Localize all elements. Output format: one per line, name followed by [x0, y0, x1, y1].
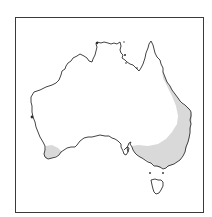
king-island-mark	[149, 172, 151, 174]
distribution-map: Outline map of Australia with shaded dis…	[0, 0, 212, 217]
wellesley-islands-mark	[125, 62, 127, 64]
map-frame	[16, 18, 204, 213]
spencer-gulf-detail	[124, 147, 129, 152]
flinders-island-mark	[162, 172, 164, 174]
shark-bay-mark	[31, 116, 34, 119]
melville-island-mark	[96, 42, 99, 45]
arnhem-islet-mark	[123, 41, 124, 42]
shaded-range-east	[132, 70, 192, 168]
tasmania-coastline	[151, 179, 163, 194]
groote-eylandt-mark	[124, 54, 126, 56]
shaded-range-southwest	[44, 145, 62, 159]
australia-map-svg	[0, 0, 212, 217]
gulf-islet-mark	[136, 67, 138, 69]
